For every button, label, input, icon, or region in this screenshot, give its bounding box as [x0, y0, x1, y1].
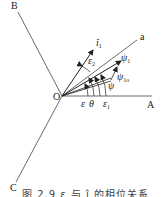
- vector-psi: [62, 81, 111, 96]
- label-psi1: ψ1: [121, 53, 130, 64]
- label-eps1: ε1: [103, 99, 110, 110]
- axis-OB: [18, 12, 62, 96]
- label-B: B: [11, 1, 18, 11]
- label-eps: ε: [81, 99, 85, 109]
- arc-1: [85, 84, 88, 96]
- label-C: C: [10, 183, 17, 193]
- arc-4: [101, 75, 106, 96]
- label-A: A: [147, 100, 154, 110]
- label-eps2: ε2: [88, 56, 95, 67]
- label-psi1o: ψ1o: [117, 72, 129, 83]
- label-theta: θ: [89, 99, 94, 109]
- axis-OC: [16, 96, 62, 182]
- figure-caption: 图 2.9 ε 与 î 的相位关系: [22, 186, 149, 197]
- label-origin: O: [53, 92, 60, 102]
- arc-3: [95, 77, 100, 96]
- label-psi: ψ: [108, 81, 114, 91]
- label-i1: î1: [96, 38, 102, 49]
- label-a: a: [140, 32, 144, 42]
